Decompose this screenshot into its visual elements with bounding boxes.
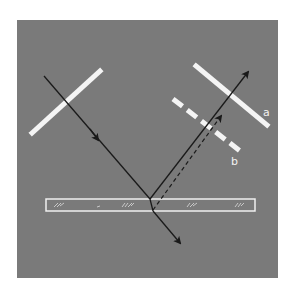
label-a: a (263, 106, 270, 119)
optics-diagram: a b (0, 0, 295, 293)
label-b: b (231, 155, 238, 168)
